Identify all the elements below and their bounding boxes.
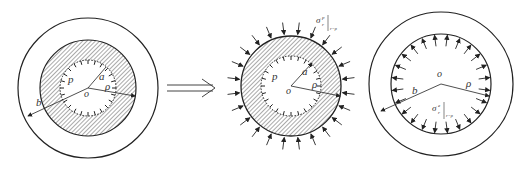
svg-text:r: r <box>438 110 440 115</box>
label-p: p <box>67 73 74 85</box>
svg-text:e: e <box>438 103 441 108</box>
svg-text:σ: σ <box>316 15 321 25</box>
svg-text:r=ρ: r=ρ <box>446 113 454 118</box>
diagram-canvas: p a ρ b o p a ρ o σ p r r=ρ <box>0 0 526 169</box>
stress-label-plastic: σ p r r=ρ <box>316 15 338 31</box>
label-o: o <box>286 85 291 96</box>
stress-label-elastic: σ e r r=ρ <box>432 102 454 119</box>
svg-text:σ: σ <box>432 103 437 113</box>
label-b: b <box>412 84 418 96</box>
panel-plastic-zone: p a ρ o σ p r r=ρ <box>228 15 355 149</box>
label-a: a <box>302 65 308 77</box>
label-rho: ρ <box>104 80 110 92</box>
label-b: b <box>36 96 42 108</box>
svg-text:p: p <box>321 15 325 20</box>
label-p: p <box>271 70 278 82</box>
label-o: o <box>437 68 442 79</box>
panel-whole-cylinder: p a ρ b o <box>18 18 158 158</box>
radius-rho-line <box>441 84 489 96</box>
label-o: o <box>84 88 89 99</box>
label-rho: ρ <box>311 78 317 90</box>
label-rho: ρ <box>465 77 471 89</box>
svg-text:r: r <box>322 22 324 27</box>
svg-text:r=ρ: r=ρ <box>330 26 338 31</box>
panel-elastic-zone: o ρ b σ e r r=ρ <box>369 12 513 156</box>
implies-arrow <box>167 79 215 97</box>
